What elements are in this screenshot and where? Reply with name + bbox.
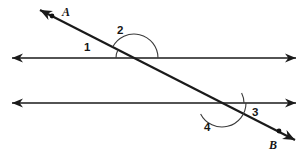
point-b-label: B xyxy=(269,139,277,151)
arrowheads-group xyxy=(12,10,296,140)
angle-4-label: 4 xyxy=(204,122,210,134)
point-a-dot xyxy=(50,14,55,19)
angle-2-arc xyxy=(113,34,158,58)
angle-1-arc xyxy=(116,50,118,58)
point-b-dot xyxy=(277,129,282,134)
transversal-group xyxy=(40,10,295,140)
angle-1-label: 1 xyxy=(84,42,90,54)
transversal-line-AB xyxy=(40,10,295,140)
parallel-lines-group xyxy=(12,58,296,103)
angle-2-label: 2 xyxy=(117,25,123,37)
geometry-figure: 1 2 3 4 A B xyxy=(0,0,306,159)
point-a-label: A xyxy=(62,6,70,18)
angle-3-arc xyxy=(242,93,244,103)
geometry-canvas xyxy=(0,0,306,159)
angle-3-label: 3 xyxy=(252,107,258,119)
